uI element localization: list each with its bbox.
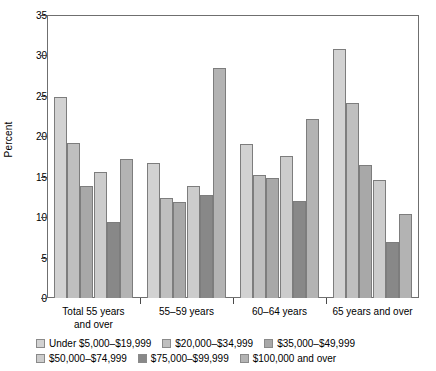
bar: [386, 242, 399, 298]
bar: [266, 178, 279, 298]
bar: [80, 186, 93, 298]
legend-item[interactable]: $50,000–$74,999: [36, 353, 127, 364]
legend-swatch-icon: [138, 354, 147, 363]
bar: [306, 119, 319, 298]
legend-item[interactable]: $35,000–$49,999: [264, 338, 355, 349]
legend-label: $20,000–$34,999: [175, 338, 253, 349]
bar: [147, 163, 160, 298]
x-axis-group-label-line: 60–64 years: [233, 306, 326, 319]
bar: [94, 172, 107, 298]
x-axis-group-label-line: 65 years and over: [326, 306, 419, 319]
bar: [107, 222, 120, 298]
legend-item[interactable]: Under $5,000–$19,999: [36, 338, 151, 349]
bar: [399, 214, 412, 298]
bar: [346, 103, 359, 298]
legend-swatch-icon: [240, 354, 249, 363]
x-tick-mark: [326, 298, 327, 304]
legend-swatch-icon: [36, 354, 45, 363]
bar-chart: Percent 05101520253035 Total 55 yearsand…: [0, 0, 436, 371]
bar: [240, 144, 253, 298]
bar: [280, 156, 293, 298]
bar: [213, 68, 226, 298]
legend-item[interactable]: $20,000–$34,999: [162, 338, 253, 349]
legend-swatch-icon: [162, 339, 171, 348]
bars-layer: [47, 15, 419, 298]
x-tick-mark: [233, 298, 234, 304]
bar: [359, 165, 372, 298]
legend-item[interactable]: $75,000–$99,999: [138, 353, 229, 364]
x-axis-group-label-line: 55–59 years: [140, 306, 233, 319]
legend-swatch-icon: [36, 339, 45, 348]
bar: [253, 175, 266, 298]
x-axis-group-label-line: and over: [47, 319, 140, 332]
x-axis-group-label: 65 years and over: [326, 306, 419, 319]
bar: [67, 143, 80, 298]
bar: [120, 159, 133, 298]
y-tick-mark: [41, 298, 47, 299]
legend-row: Under $5,000–$19,999$20,000–$34,999$35,0…: [36, 336, 428, 350]
x-axis-group-label: Total 55 yearsand over: [47, 306, 140, 331]
legend-swatch-icon: [264, 339, 273, 348]
bar: [373, 180, 386, 298]
legend-label: $75,000–$99,999: [151, 353, 229, 364]
x-axis-group-label: 55–59 years: [140, 306, 233, 319]
x-tick-mark: [140, 298, 141, 304]
legend-label: Under $5,000–$19,999: [49, 338, 151, 349]
legend-label: $35,000–$49,999: [277, 338, 355, 349]
bar: [54, 97, 67, 298]
legend-label: $50,000–$74,999: [49, 353, 127, 364]
legend-row: $50,000–$74,999$75,000–$99,999$100,000 a…: [36, 351, 428, 365]
bar: [200, 195, 213, 298]
bar: [333, 49, 346, 298]
bar: [293, 201, 306, 298]
bar: [187, 186, 200, 298]
bar: [160, 198, 173, 298]
legend-item[interactable]: $100,000 and over: [240, 353, 336, 364]
legend-label: $100,000 and over: [253, 353, 336, 364]
x-axis-group-label-line: Total 55 years: [47, 306, 140, 319]
chart-legend: Under $5,000–$19,999$20,000–$34,999$35,0…: [36, 336, 428, 366]
bar: [173, 202, 186, 298]
x-axis-group-label: 60–64 years: [233, 306, 326, 319]
y-axis: 05101520253035: [0, 0, 47, 371]
